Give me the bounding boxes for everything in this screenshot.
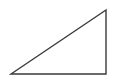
right-triangle [11,10,106,74]
diagram-canvas [0,0,114,81]
